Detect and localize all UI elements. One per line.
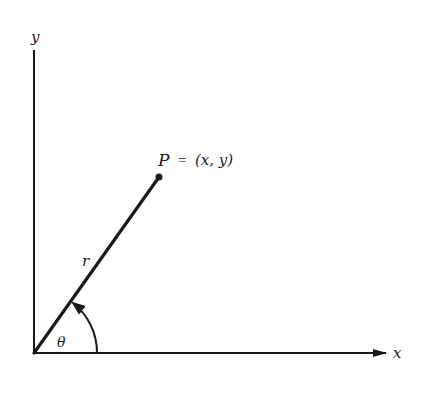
point-coordinates: (x, y) [195, 151, 233, 169]
radius-line [34, 177, 159, 353]
point-p-dot [156, 174, 163, 181]
point-name: P [157, 150, 170, 170]
angle-label: θ [57, 334, 66, 350]
x-axis-label: x [393, 344, 402, 362]
point-equals: = [178, 152, 186, 168]
y-axis-label: y [30, 28, 40, 46]
angle-arc-icon [73, 303, 97, 353]
polar-coordinate-diagram: y x r θ P = (x, y) [0, 0, 432, 402]
radius-label: r [82, 252, 90, 270]
